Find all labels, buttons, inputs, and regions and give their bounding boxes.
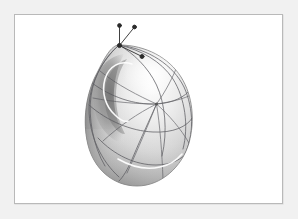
figure-frame: Shaded three-dimensional ovoid surface w… (14, 14, 283, 204)
surface-illustration (15, 15, 282, 203)
vector-lower-right-tip (140, 55, 144, 59)
north-pole-base-point (117, 43, 121, 47)
focal-point (155, 103, 158, 106)
vector-vertical (118, 24, 122, 46)
vector-vertical-tip (118, 24, 122, 28)
vector-upper-right (120, 25, 137, 45)
figure-root: Shaded three-dimensional ovoid surface w… (0, 0, 298, 219)
vector-upper-right-tip (133, 25, 137, 29)
